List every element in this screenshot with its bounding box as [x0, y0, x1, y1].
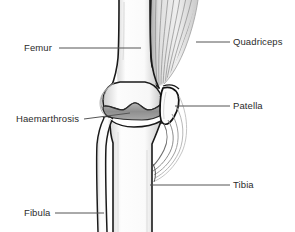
- patella-bone: [160, 85, 179, 124]
- label-patella: Patella: [233, 100, 263, 111]
- label-tibia: Tibia: [233, 179, 254, 190]
- knee-anatomy-diagram: Femur Haemarthrosis Fibula Quadriceps Pa…: [0, 0, 295, 232]
- label-quadriceps: Quadriceps: [233, 36, 283, 47]
- label-haemarthrosis: Haemarthrosis: [16, 113, 79, 124]
- quadriceps-muscle: [150, 0, 198, 88]
- tibia-bone: [110, 120, 161, 232]
- label-fibula: Fibula: [24, 207, 50, 218]
- label-femur: Femur: [24, 42, 52, 53]
